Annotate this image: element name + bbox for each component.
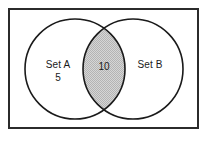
intersection-count: 10: [98, 61, 110, 72]
venn-diagram-canvas: Set A 5 10 Set B: [0, 0, 208, 142]
set-a-label: Set A: [46, 59, 71, 70]
venn-diagram-figure: Set A 5 10 Set B: [0, 0, 208, 142]
set-a-count: 5: [55, 72, 61, 83]
set-b-label: Set B: [138, 59, 163, 70]
